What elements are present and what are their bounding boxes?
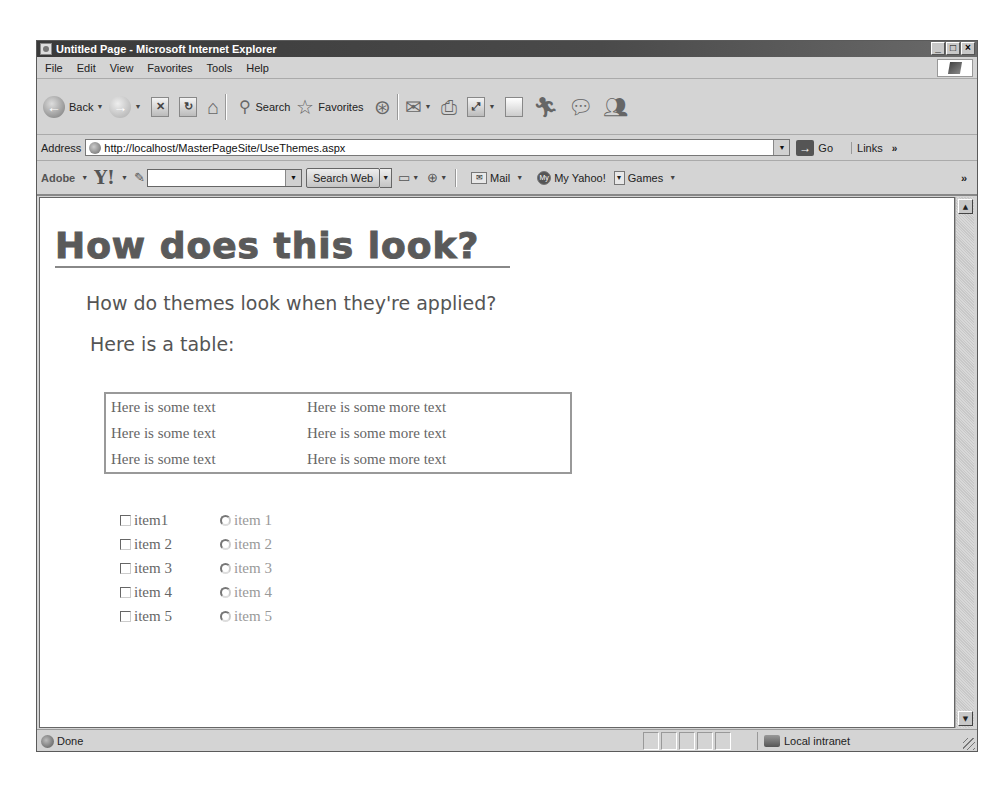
back-label: Back xyxy=(69,101,93,113)
back-button[interactable]: ← Back ▼ xyxy=(43,96,103,118)
menu-edit[interactable]: Edit xyxy=(77,62,96,74)
fullscreen-button[interactable]: ⤢ xyxy=(467,97,485,117)
window-icon[interactable]: ▭ xyxy=(398,170,410,185)
radio-label[interactable]: item 5 xyxy=(234,608,272,625)
checkbox-item[interactable]: item 4 xyxy=(120,580,172,604)
yahoo-search-input[interactable]: ▼ xyxy=(147,169,302,187)
chevron-down-icon[interactable]: ▼ xyxy=(134,103,141,110)
status-panel xyxy=(661,732,677,750)
radio-button[interactable] xyxy=(220,539,231,550)
status-bar: Done Local intranet xyxy=(37,729,977,752)
status-panel xyxy=(715,732,731,750)
window-title: Untitled Page - Microsoft Internet Explo… xyxy=(56,43,277,55)
radio-button[interactable] xyxy=(220,611,231,622)
chevron-right-icon[interactable]: » xyxy=(892,143,898,154)
mail-link[interactable]: ✉ Mail ▼ xyxy=(471,172,529,184)
maximize-button[interactable]: □ xyxy=(946,42,960,55)
radio-button[interactable] xyxy=(220,515,231,526)
chevron-down-icon[interactable]: ▼ xyxy=(285,170,301,186)
checkbox-label[interactable]: item 2 xyxy=(134,536,172,553)
radio-item[interactable]: item 2 xyxy=(220,532,272,556)
status-text: Done xyxy=(57,735,83,747)
search-web-button[interactable]: Search Web xyxy=(306,168,380,188)
envelope-icon: ✉ xyxy=(471,172,487,184)
checkbox[interactable] xyxy=(120,539,131,550)
forward-button[interactable]: → ▼ xyxy=(109,96,141,118)
browser-window: Untitled Page - Microsoft Internet Explo… xyxy=(36,40,978,752)
chevron-down-icon[interactable]: ▼ xyxy=(773,140,789,155)
page-subheading: How do themes look when they're applied? xyxy=(86,292,496,314)
checkbox-label[interactable]: item1 xyxy=(134,512,168,529)
my-yahoo-link[interactable]: My My Yahoo! xyxy=(537,171,606,185)
search-button[interactable]: ⚲ Search xyxy=(239,97,290,117)
checkbox[interactable] xyxy=(120,563,131,574)
go-button[interactable]: → Go xyxy=(796,140,833,156)
menu-file[interactable]: File xyxy=(45,62,63,74)
radio-item[interactable]: item 5 xyxy=(220,604,272,628)
menu-help[interactable]: Help xyxy=(246,62,269,74)
mail-button[interactable]: ✉ xyxy=(405,97,422,117)
chevron-down-icon[interactable]: ▼ xyxy=(380,168,392,188)
checkbox-item[interactable]: item 5 xyxy=(120,604,172,628)
adobe-button[interactable]: Adobe xyxy=(41,172,75,184)
radio-button[interactable] xyxy=(220,587,231,598)
radio-item[interactable]: item 1 xyxy=(220,508,272,532)
chevron-down-icon[interactable]: ▼ xyxy=(425,103,432,110)
go-arrow-icon: → xyxy=(796,140,814,156)
favorites-button[interactable]: ☆ Favorites xyxy=(296,97,363,117)
radio-item[interactable]: item 4 xyxy=(220,580,272,604)
pencil-icon[interactable]: ✎ xyxy=(134,170,145,185)
toolbar-separator xyxy=(225,94,227,120)
menu-favorites[interactable]: Favorites xyxy=(147,62,192,74)
home-button[interactable]: ⌂ xyxy=(207,97,219,117)
chevron-right-icon[interactable]: » xyxy=(961,172,967,184)
scroll-up-button[interactable]: ▲ xyxy=(958,199,973,214)
chevron-down-icon[interactable]: ▼ xyxy=(669,174,676,181)
chevron-down-icon[interactable]: ▼ xyxy=(81,174,88,181)
vertical-scrollbar[interactable]: ▲ ▼ xyxy=(955,197,974,728)
chevron-down-icon[interactable]: ▼ xyxy=(412,174,419,181)
checkbox[interactable] xyxy=(120,587,131,598)
games-link[interactable]: ▾ Games ▼ xyxy=(614,171,682,185)
chevron-down-icon[interactable]: ▼ xyxy=(121,174,128,181)
minimize-button[interactable]: _ xyxy=(931,42,945,55)
messenger-bubble-icon[interactable]: 💬︎ xyxy=(568,97,593,117)
checkbox-item[interactable]: item 3 xyxy=(120,556,172,580)
radio-item[interactable]: item 3 xyxy=(220,556,272,580)
history-button[interactable]: ⊛ xyxy=(374,97,391,117)
yahoo-logo[interactable]: Y! xyxy=(94,167,115,188)
checkbox-label[interactable]: item 3 xyxy=(134,560,172,577)
checkbox-item[interactable]: item1 xyxy=(120,508,172,532)
checkbox-label[interactable]: item 5 xyxy=(134,608,172,625)
chevron-down-icon[interactable]: ▼ xyxy=(488,103,495,110)
forward-arrow-icon: → xyxy=(109,96,131,118)
radio-label[interactable]: item 3 xyxy=(234,560,272,577)
refresh-button[interactable]: ↻ xyxy=(179,97,197,117)
buddies-icon[interactable]: 👥︎ xyxy=(603,97,628,117)
checkbox-item[interactable]: item 2 xyxy=(120,532,172,556)
address-url[interactable]: http://localhost/MasterPageSite/UseTheme… xyxy=(104,142,345,154)
stop-button[interactable]: ✕ xyxy=(151,97,169,117)
links-button[interactable]: Links » xyxy=(851,142,897,154)
checkbox[interactable] xyxy=(120,515,131,526)
chevron-down-icon[interactable]: ▼ xyxy=(440,174,447,181)
resize-grip-icon[interactable] xyxy=(963,738,975,750)
menu-view[interactable]: View xyxy=(110,62,134,74)
radio-label[interactable]: item 1 xyxy=(234,512,272,529)
radio-label[interactable]: item 2 xyxy=(234,536,272,553)
table-intro: Here is a table: xyxy=(90,333,235,355)
radio-button[interactable] xyxy=(220,563,231,574)
checkbox[interactable] xyxy=(120,611,131,622)
print-button[interactable]: ⎙ xyxy=(441,97,457,117)
menu-tools[interactable]: Tools xyxy=(207,62,233,74)
aim-runner-icon[interactable]: 🏃︎ xyxy=(533,97,558,117)
checkbox-label[interactable]: item 4 xyxy=(134,584,172,601)
note-button[interactable] xyxy=(505,97,523,117)
radio-label[interactable]: item 4 xyxy=(234,584,272,601)
crosshair-icon[interactable]: ⊕ xyxy=(427,170,438,185)
chevron-down-icon[interactable]: ▼ xyxy=(96,103,103,110)
address-input[interactable]: http://localhost/MasterPageSite/UseTheme… xyxy=(85,139,790,156)
scroll-down-button[interactable]: ▼ xyxy=(958,711,973,726)
close-button[interactable]: × xyxy=(961,42,975,55)
chevron-down-icon[interactable]: ▼ xyxy=(516,174,523,181)
